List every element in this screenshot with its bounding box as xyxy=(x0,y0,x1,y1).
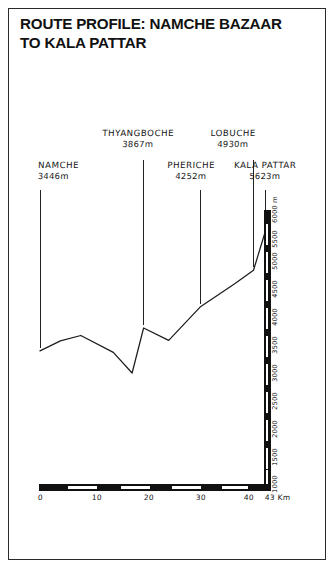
y-tick-5500: 5500 xyxy=(271,230,279,248)
annotation-namche: NAMCHE 3446m xyxy=(38,160,80,182)
y-tick-1000: 1000 xyxy=(271,475,279,493)
annotation-pheriche: PHERICHE 4252m xyxy=(158,160,225,182)
annotation-thyangboche-name: THYANGBOCHE xyxy=(97,128,179,139)
x-tick-0: 0 xyxy=(38,493,43,502)
y-tick-3500: 3500 xyxy=(271,336,279,354)
y-tick-3000: 3000 xyxy=(271,364,279,382)
annotation-pheriche-name: PHERICHE xyxy=(158,160,224,171)
annotation-thyangboche: THYANGBOCHE 3867m xyxy=(97,128,180,150)
x-tick-40: 40 xyxy=(244,493,254,502)
y-tick-6000-m: 6000 m xyxy=(271,196,279,223)
annotation-kala-pattar-name: KALA PATTAR xyxy=(225,160,305,171)
annotation-namche-name: NAMCHE xyxy=(38,160,79,171)
y-tick-2500: 2500 xyxy=(271,392,279,410)
annotation-thyangboche-altitude: 3867m xyxy=(97,139,179,150)
annotation-lobuche: LOBUCHE 4930m xyxy=(203,128,264,150)
y-tick-2000: 2000 xyxy=(271,420,279,438)
annotation-kala-pattar: KALA PATTAR 5623m xyxy=(225,160,306,182)
x-tick-30: 30 xyxy=(196,493,206,502)
annotation-lobuche-name: LOBUCHE xyxy=(203,128,263,139)
y-tick-5000: 5000 xyxy=(271,252,279,270)
annotation-kala-pattar-altitude: 5623m xyxy=(225,171,305,182)
annotation-pheriche-altitude: 4252m xyxy=(158,171,224,182)
y-tick-1500: 1500 xyxy=(271,448,279,466)
annotation-namche-altitude: 3446m xyxy=(38,171,79,182)
x-tick-20: 20 xyxy=(144,493,154,502)
x-tick-43-km: 43 Km xyxy=(265,493,291,502)
x-tick-10: 10 xyxy=(92,493,102,502)
y-tick-4000: 4000 xyxy=(271,308,279,326)
chart-title: ROUTE PROFILE: NAMCHE BAZAAR TO KALA PAT… xyxy=(20,14,310,52)
y-tick-4500: 4500 xyxy=(271,280,279,298)
annotation-lobuche-altitude: 4930m xyxy=(203,139,263,150)
